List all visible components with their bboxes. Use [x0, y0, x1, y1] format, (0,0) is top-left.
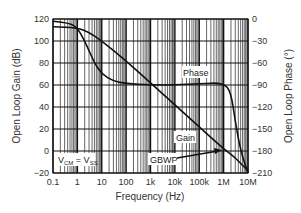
y-axis-ticks: 120100806040200−20 — [34, 14, 49, 178]
y-tick-label: 100 — [34, 36, 49, 46]
y-axis-label: Open Loop Gain (dB) — [11, 48, 22, 143]
y-tick-label: 40 — [39, 102, 49, 112]
y2-tick-label: −30 — [252, 36, 267, 46]
phase-label: Phase — [183, 68, 209, 78]
x-tick-label: 1M — [217, 177, 230, 187]
y2-tick-label: −90 — [252, 80, 267, 90]
y-tick-label: 60 — [39, 80, 49, 90]
x-tick-label: 10k — [168, 177, 183, 187]
y2-tick-label: −150 — [252, 124, 272, 134]
x-tick-label: 1 — [75, 177, 80, 187]
y-tick-label: 0 — [44, 146, 49, 156]
x-axis-ticks: 0.11101001k10k100k1M10M — [47, 177, 257, 187]
x-tick-label: 10M — [239, 177, 257, 187]
x-tick-label: 100k — [189, 177, 209, 187]
y2-tick-label: −120 — [252, 102, 272, 112]
gbwp-arrow — [177, 151, 218, 158]
y-tick-label: 120 — [34, 14, 49, 24]
x-tick-label: 0.1 — [47, 177, 60, 187]
x-tick-label: 10 — [97, 177, 107, 187]
y2-axis-ticks: 0−30−60−90−120−150−180−210 — [252, 14, 272, 178]
y-tick-label: 80 — [39, 58, 49, 68]
bode-plot: 120100806040200−20 0−30−60−90−120−150−18… — [0, 0, 301, 213]
y-tick-label: 20 — [39, 124, 49, 134]
gain-label: Gain — [176, 133, 195, 143]
y2-tick-label: −180 — [252, 146, 272, 156]
y2-tick-label: −60 — [252, 58, 267, 68]
x-tick-label: 1k — [146, 177, 156, 187]
x-tick-label: 100 — [119, 177, 134, 187]
x-axis-label: Frequency (Hz) — [116, 191, 185, 202]
gbwp-label: GBWP — [150, 155, 178, 165]
y2-tick-label: 0 — [252, 14, 257, 24]
y2-axis-label: Open Loop Phase (°) — [283, 49, 294, 143]
